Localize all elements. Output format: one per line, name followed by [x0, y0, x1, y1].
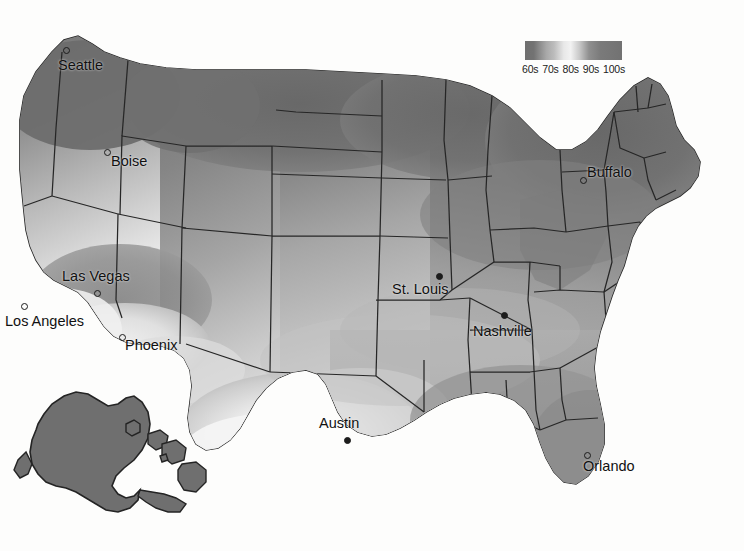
city-label: Boise	[111, 153, 147, 169]
city-label: Los Angeles	[5, 313, 84, 329]
city-label: Buffalo	[587, 164, 632, 180]
city-marker-icon	[501, 312, 508, 319]
legend-tick-100s: 100s	[603, 63, 625, 75]
city-label: Austin	[319, 415, 359, 431]
legend: 60s 70s 80s 90s 100s	[525, 41, 622, 75]
city-label: St. Louis	[392, 281, 448, 297]
alaska-inset	[14, 392, 186, 512]
legend-tick-60s: 60s	[522, 63, 538, 75]
city-marker-icon	[436, 273, 443, 280]
city-marker-icon	[344, 437, 351, 444]
city-marker-icon	[94, 290, 101, 297]
map-canvas: 60s 70s 80s 90s 100s SeattleBoiseLas Veg…	[0, 0, 744, 551]
legend-tick-70s: 70s	[542, 63, 558, 75]
legend-gradient-bar	[525, 41, 622, 60]
city-marker-icon	[104, 149, 111, 156]
city-marker-icon	[63, 47, 70, 54]
legend-tick-labels: 60s 70s 80s 90s 100s	[522, 63, 625, 75]
city-label: Phoenix	[125, 337, 177, 353]
legend-tick-80s: 80s	[563, 63, 579, 75]
city-label: Orlando	[583, 458, 635, 474]
city-marker-icon	[21, 303, 28, 310]
city-marker-icon	[580, 177, 587, 184]
legend-tick-90s: 90s	[583, 63, 599, 75]
city-label: Las Vegas	[62, 268, 130, 284]
city-label: Seattle	[58, 57, 103, 73]
city-label: Nashville	[473, 323, 532, 339]
